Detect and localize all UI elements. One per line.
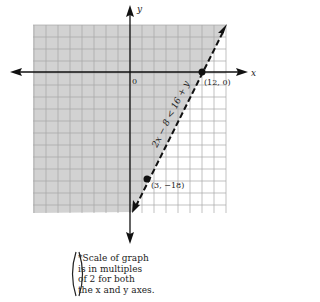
point-label-12-0: (12, 0) — [204, 78, 231, 87]
note-line-3: of 2 for both — [78, 274, 184, 285]
point-12-0 — [199, 69, 206, 76]
origin-label: 0 — [132, 77, 137, 86]
point-label-3-neg18: (3, −18) — [151, 181, 184, 190]
y-axis-label: y — [136, 4, 143, 14]
x-axis-label: x — [251, 68, 256, 78]
point-3-neg18 — [144, 176, 151, 183]
scale-note: *Scale of graph is in multiples of 2 for… — [78, 253, 184, 295]
note-line-2: is in multiples — [78, 264, 184, 275]
right-paren-icon — [78, 251, 86, 297]
note-line-4: the x and y axes. — [78, 285, 184, 296]
note-line-1: *Scale of graph — [78, 253, 184, 264]
left-paren-icon — [69, 251, 77, 297]
